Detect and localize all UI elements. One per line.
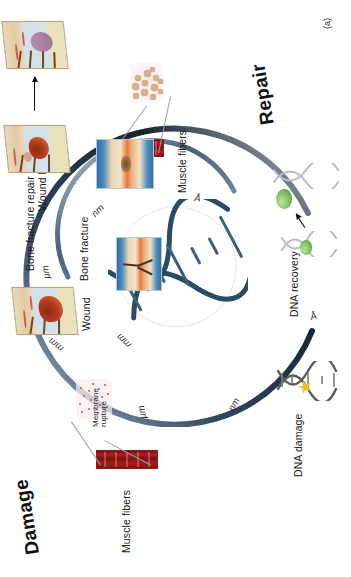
dna-recovery-strand-right [272, 163, 344, 189]
label-dna-damage: DNA damage [292, 414, 304, 477]
dna-damage-icon [276, 361, 342, 401]
label-membrane-rupture: Membrane rupture [92, 393, 109, 427]
label-bone-fracture-repair: Bone fracture repair [24, 176, 36, 271]
section-header-damage: Damage [10, 477, 44, 556]
figure-scene: Damage Repair [0, 0, 351, 577]
repair-enzyme-icon-left [300, 240, 312, 255]
wound-skin-illustration [11, 287, 78, 335]
figure-canvas: Damage Repair [0, 0, 351, 577]
label-wound: Wound [80, 297, 92, 331]
healed-skin-illustration [1, 21, 68, 69]
regenerating-cell-cluster [130, 63, 164, 103]
callout-line-rupture-top [71, 422, 101, 466]
bone-fracture-illustration [116, 237, 162, 291]
wound-healing-arrow [34, 77, 35, 111]
label-dna-recovery: DNA recovery [288, 251, 300, 317]
repair-enzyme-icon-right [276, 189, 292, 209]
bone-fracture-repair-illustration [96, 139, 154, 189]
scale-label-inner-um: µm [39, 265, 51, 280]
healing-wound-illustration [3, 125, 70, 173]
scale-label-outer-um: µm [135, 405, 148, 420]
panel-label: (a) [322, 18, 332, 29]
label-muscle-fibers-damage: Muscle fibers [120, 490, 132, 553]
label-bone-fracture: Bone fracture [78, 217, 90, 281]
label-muscle-fibers-repair: Muscle fibers [176, 130, 188, 193]
